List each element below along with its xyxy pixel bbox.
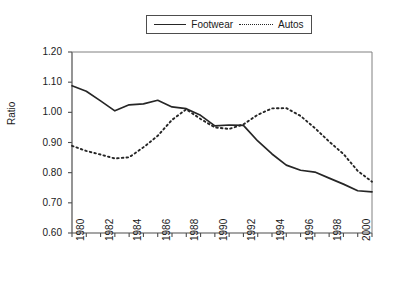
x-axis-tick-label: 1984 bbox=[133, 219, 143, 241]
x-axis-tick-label: 1998 bbox=[333, 219, 343, 241]
x-axis-tick-label: 1988 bbox=[190, 219, 200, 241]
y-axis-tick-label: 1.00 bbox=[32, 107, 62, 117]
x-axis-tick-label: 2000 bbox=[362, 219, 372, 241]
x-axis-tick-label: 1980 bbox=[76, 219, 86, 241]
y-axis-tick-label: 0.60 bbox=[32, 228, 62, 238]
y-axis-tick-label: 0.70 bbox=[32, 198, 62, 208]
y-axis-tick-label: 0.90 bbox=[32, 138, 62, 148]
x-axis-tick-label: 1986 bbox=[162, 219, 172, 241]
x-axis-tick-label: 1992 bbox=[247, 219, 257, 241]
y-axis-tick-label: 1.20 bbox=[32, 47, 62, 57]
x-axis-tick-label: 1996 bbox=[305, 219, 315, 241]
x-axis-tick-label: 1990 bbox=[219, 219, 229, 241]
series-line-autos bbox=[72, 108, 372, 182]
y-axis-tick-label: 0.80 bbox=[32, 168, 62, 178]
axis-lines bbox=[72, 52, 372, 233]
x-axis-tick-label: 1994 bbox=[276, 219, 286, 241]
x-axis-tick-label: 1982 bbox=[105, 219, 115, 241]
y-axis-tick-label: 1.10 bbox=[32, 77, 62, 87]
chart-figure: Footwear Autos Ratio 0.600.700.800.901.0… bbox=[0, 0, 413, 285]
